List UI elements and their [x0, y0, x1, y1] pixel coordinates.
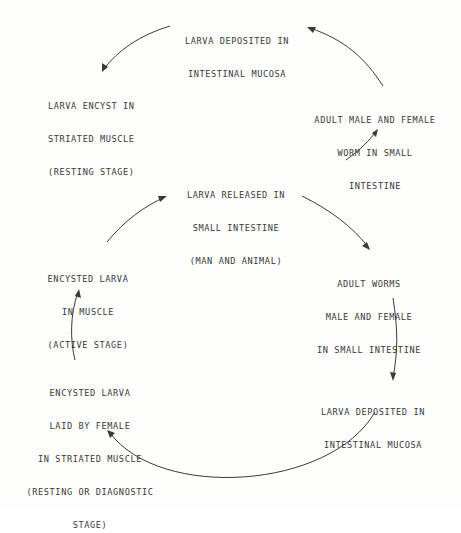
- node-line: LARVA DEPOSITED IN: [309, 407, 437, 418]
- node-line: SMALL INTESTINE: [175, 223, 297, 234]
- node-line: LARVA ENCYST IN: [48, 101, 156, 112]
- node-line: ENCYSTED LARVA: [38, 274, 138, 285]
- node-line: STRIATED MUSCLE: [48, 134, 156, 145]
- arrowhead: [362, 242, 370, 250]
- node-line: IN STRIATED MUSCLE: [18, 454, 162, 465]
- node-line: MALE AND FEMALE: [305, 312, 433, 323]
- edge-adult-worm-to-upper-larva-deposited: [310, 28, 383, 86]
- node-line: ADULT MALE AND FEMALE: [302, 115, 448, 126]
- node-encysted-larva-active: ENCYSTED LARVA IN MUSCLE (ACTIVE STAGE): [38, 252, 138, 373]
- node-line: (ACTIVE STAGE): [38, 340, 138, 351]
- node-upper-larva-deposited: LARVA DEPOSITED IN INTESTINAL MUCOSA: [172, 14, 302, 102]
- node-adult-male-female-worm: ADULT MALE AND FEMALE WORM IN SMALL INTE…: [302, 93, 448, 214]
- node-line: (RESTING OR DIAGNOSTIC: [18, 487, 162, 498]
- node-line: LARVA DEPOSITED IN: [172, 36, 302, 47]
- node-line: (RESTING STAGE): [48, 167, 156, 178]
- node-line: WORM IN SMALL: [302, 148, 448, 159]
- node-line: LAID BY FEMALE: [18, 421, 162, 432]
- node-adult-worms: ADULT WORMS MALE AND FEMALE IN SMALL INT…: [305, 257, 433, 378]
- node-larva-released: LARVA RELEASED IN SMALL INTESTINE (MAN A…: [175, 168, 297, 289]
- node-line: ADULT WORMS: [305, 279, 433, 290]
- node-line: STAGE): [18, 520, 162, 531]
- node-encysted-larva-laid: ENCYSTED LARVA LAID BY FEMALE IN STRIATE…: [18, 366, 162, 533]
- node-lower-larva-deposited: LARVA DEPOSITED IN INTESTINAL MUCOSA: [309, 385, 437, 473]
- node-line: INTESTINE: [302, 181, 448, 192]
- edge-encysted-larva-active-to-larva-released: [107, 197, 165, 242]
- edge-upper-larva-deposited-to-larva-encyst: [103, 26, 170, 70]
- node-line: INTESTINAL MUCOSA: [172, 69, 302, 80]
- node-line: INTESTINAL MUCOSA: [309, 440, 437, 451]
- arrowhead: [158, 196, 167, 202]
- node-line: LARVA RELEASED IN: [175, 190, 297, 201]
- node-larva-encyst: LARVA ENCYST IN STRIATED MUSCLE (RESTING…: [48, 79, 156, 200]
- node-line: IN SMALL INTESTINE: [305, 345, 433, 356]
- node-line: (MAN AND ANIMAL): [175, 256, 297, 267]
- node-line: IN MUSCLE: [38, 307, 138, 318]
- node-line: ENCYSTED LARVA: [18, 388, 162, 399]
